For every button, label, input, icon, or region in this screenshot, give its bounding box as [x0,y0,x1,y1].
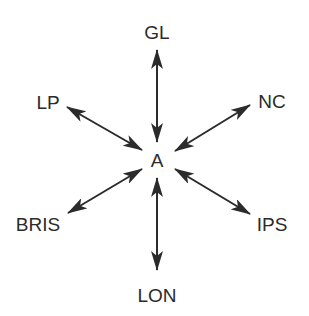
arrow-a-ips [175,169,250,214]
arrow-a-nc [175,105,250,151]
node-bris: BRIS [16,215,60,234]
node-nc: NC [258,92,285,111]
arrow-a-bris [68,169,142,213]
node-gl: GL [144,23,169,42]
node-lon: LON [137,286,176,305]
node-ips: IPS [257,215,288,234]
node-lp: LP [36,93,59,112]
hub-spoke-diagram: GL LP NC BRIS IPS LON A [0,0,309,316]
node-a-center: A [151,151,164,170]
arrow-a-lp [67,107,142,150]
